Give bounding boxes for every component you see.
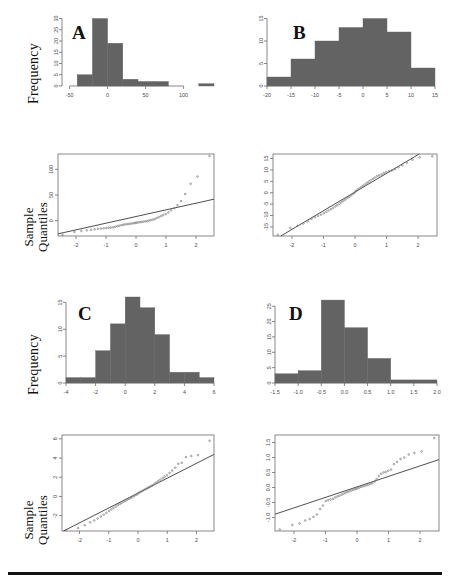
svg-text:50: 50 — [48, 192, 54, 198]
svg-text:-4: -4 — [64, 389, 69, 395]
svg-text:-10: -10 — [311, 92, 319, 98]
svg-text:-5: -5 — [337, 92, 342, 98]
svg-text:-20: -20 — [263, 92, 271, 98]
y-axis-label-sample-quantiles-a: Sample Quantiles — [22, 202, 49, 252]
panel-qq-d: -2-1012-1.0-0.50.00.51.01.5 — [225, 425, 450, 560]
svg-text:6: 6 — [52, 437, 58, 440]
panel-letter-c: C — [78, 303, 92, 325]
svg-text:-50: -50 — [66, 92, 74, 98]
svg-text:6: 6 — [213, 389, 216, 395]
svg-text:1: 1 — [165, 242, 168, 248]
svg-text:2: 2 — [417, 242, 420, 248]
svg-text:15: 15 — [57, 299, 63, 305]
svg-text:4: 4 — [183, 389, 186, 395]
svg-text:30: 30 — [53, 16, 59, 22]
svg-text:0: 0 — [124, 389, 127, 395]
svg-text:-1.5: -1.5 — [270, 389, 279, 395]
svg-text:0: 0 — [52, 495, 58, 498]
svg-text:100: 100 — [179, 92, 188, 98]
svg-text:4: 4 — [52, 457, 58, 460]
svg-text:25: 25 — [266, 303, 272, 309]
figure-panel-grid: Frequency A -50050100051015202530 B -20-… — [0, 0, 450, 584]
svg-text:0: 0 — [263, 191, 269, 194]
svg-text:0: 0 — [53, 85, 59, 88]
svg-text:20: 20 — [266, 319, 272, 325]
svg-text:0: 0 — [106, 92, 109, 98]
svg-text:10: 10 — [57, 326, 63, 332]
svg-text:0: 0 — [354, 242, 357, 248]
histogram-d-plot: -1.5-1.0-0.50.00.51.01.52.00510152025 — [225, 285, 450, 410]
svg-text:1.5: 1.5 — [265, 439, 271, 447]
y-axis-label-sample-quantiles-c: Sample Quantiles — [22, 495, 49, 545]
y-axis-label-frequency-a: Frequency — [26, 43, 42, 104]
svg-text:-1: -1 — [323, 537, 328, 543]
svg-text:1.0: 1.0 — [265, 454, 271, 462]
svg-text:2: 2 — [195, 242, 198, 248]
svg-text:1: 1 — [385, 242, 388, 248]
panel-hist-b: B -20-15-10-5051015051015 — [225, 0, 450, 120]
y-axis-label-frequency-c: Frequency — [26, 334, 42, 395]
svg-text:-2: -2 — [77, 537, 82, 543]
y-axis-label-line2: Quantiles — [35, 202, 50, 252]
qq-d-plot: -2-1012-1.0-0.50.00.51.01.5 — [225, 425, 450, 560]
svg-text:0: 0 — [356, 537, 359, 543]
svg-text:-10: -10 — [263, 212, 269, 220]
svg-text:-2: -2 — [93, 389, 98, 395]
svg-text:2.0: 2.0 — [433, 389, 441, 395]
svg-text:15: 15 — [53, 49, 59, 55]
panel-hist-d: D -1.5-1.0-0.50.00.51.01.52.00510152025 — [225, 285, 450, 410]
svg-text:2: 2 — [419, 537, 422, 543]
svg-text:-1: -1 — [106, 537, 111, 543]
svg-text:-2: -2 — [74, 242, 79, 248]
y-axis-label-line2: Quantiles — [35, 495, 50, 545]
panel-qq-a: Sample Quantiles -2-1012050100 — [0, 140, 225, 260]
svg-text:5: 5 — [57, 355, 63, 358]
svg-text:15: 15 — [258, 16, 264, 22]
panel-letter-d: D — [289, 303, 303, 325]
svg-text:15: 15 — [266, 334, 272, 340]
svg-text:5: 5 — [386, 92, 389, 98]
svg-text:-0.5: -0.5 — [317, 389, 326, 395]
svg-text:-2: -2 — [290, 242, 295, 248]
svg-text:-1.0: -1.0 — [293, 389, 302, 395]
svg-text:5: 5 — [263, 180, 269, 183]
svg-text:0.0: 0.0 — [265, 484, 271, 492]
panel-hist-c: Frequency C -4-20246051015 — [0, 285, 225, 410]
svg-text:0: 0 — [266, 382, 272, 385]
svg-text:10: 10 — [408, 92, 414, 98]
svg-text:-5: -5 — [263, 202, 269, 207]
svg-text:1.5: 1.5 — [410, 389, 418, 395]
svg-text:1.0: 1.0 — [387, 389, 395, 395]
panel-hist-a: Frequency A -50050100051015202530 — [0, 0, 225, 120]
svg-text:2: 2 — [52, 476, 58, 479]
svg-text:-1.0: -1.0 — [265, 513, 271, 522]
panel-qq-b: -2-1012-15-10-5051015 — [225, 140, 450, 260]
svg-text:10: 10 — [258, 38, 264, 44]
svg-text:20: 20 — [53, 38, 59, 44]
svg-text:0: 0 — [135, 242, 138, 248]
panel-letter-a: A — [72, 22, 86, 44]
histogram-b-plot: -20-15-10-5051015051015 — [225, 0, 450, 120]
svg-text:-2: -2 — [292, 537, 297, 543]
svg-text:0: 0 — [362, 92, 365, 98]
svg-text:50: 50 — [143, 92, 149, 98]
bottom-divider-rule — [8, 572, 442, 575]
svg-text:5: 5 — [53, 73, 59, 76]
svg-text:5: 5 — [266, 366, 272, 369]
svg-text:100: 100 — [48, 165, 54, 174]
svg-text:-2: -2 — [52, 513, 58, 518]
svg-text:0: 0 — [57, 382, 63, 385]
svg-text:0: 0 — [137, 537, 140, 543]
svg-text:-15: -15 — [287, 92, 295, 98]
svg-text:15: 15 — [432, 92, 438, 98]
svg-text:25: 25 — [53, 27, 59, 33]
svg-text:-1: -1 — [104, 242, 109, 248]
svg-text:10: 10 — [266, 349, 272, 355]
svg-text:-1: -1 — [321, 242, 326, 248]
svg-text:5: 5 — [258, 62, 264, 65]
svg-text:10: 10 — [263, 167, 269, 173]
svg-text:2: 2 — [195, 537, 198, 543]
panel-letter-b: B — [293, 22, 306, 44]
svg-text:-15: -15 — [263, 223, 269, 231]
svg-text:10: 10 — [53, 61, 59, 67]
